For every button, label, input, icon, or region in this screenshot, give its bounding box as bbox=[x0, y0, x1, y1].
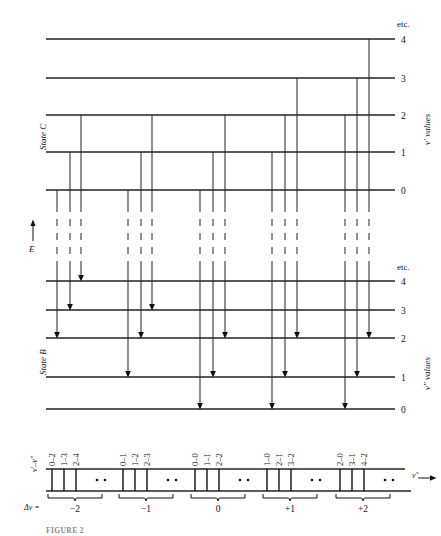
spectrum-dot bbox=[392, 479, 395, 482]
wavenumber-arrowhead bbox=[430, 475, 437, 481]
spectrum-line-label-3–2: 3–2 bbox=[286, 453, 296, 466]
spectrum-line-label-0–2: 0–2 bbox=[47, 453, 57, 466]
energy-axis-label: E bbox=[29, 244, 35, 254]
spectrum-line-label-1–2: 1–2 bbox=[130, 453, 140, 466]
transition-3-2 bbox=[294, 78, 300, 339]
spectrum-group-brace-tip bbox=[361, 498, 365, 501]
upper-level-number-4: 4 bbox=[401, 35, 406, 45]
spectrum-line-label-2–2: 2–2 bbox=[214, 453, 224, 466]
spectrum-group-delta-1: −1 bbox=[141, 504, 151, 514]
upper-level-number-2: 2 bbox=[401, 111, 406, 121]
lower-v-values-title: v″ values bbox=[422, 357, 432, 390]
transition-1-3 bbox=[67, 152, 73, 311]
spectrum-group-brace-tip bbox=[73, 498, 77, 501]
spectrum-dot bbox=[96, 479, 99, 482]
upper-level-number-1: 1 bbox=[401, 148, 406, 158]
spectrum-line-label-4–2: 4–2 bbox=[359, 453, 369, 466]
transition-1-1 bbox=[210, 152, 216, 378]
spectrum-group-brace-tip bbox=[216, 498, 220, 501]
spectrum-line-label-1–0: 1–0 bbox=[262, 453, 272, 466]
transition-2-0 bbox=[342, 115, 348, 410]
figure-container: 43210432100–21–32–4−20–11–22–3−10–01–12–… bbox=[0, 0, 441, 536]
transition-3-1 bbox=[354, 78, 360, 378]
transition-row-label: v′–v″ bbox=[30, 456, 39, 472]
upper-level-number-3: 3 bbox=[401, 74, 406, 84]
spectrum-group-delta-2: 0 bbox=[216, 504, 221, 514]
transition-0-2 bbox=[54, 190, 60, 339]
spectrum-group-brace bbox=[119, 494, 173, 498]
spectrum-dot bbox=[247, 479, 250, 482]
upper-level-number-0: 0 bbox=[401, 186, 406, 196]
spectrum-line-label-1–1: 1–1 bbox=[202, 453, 212, 466]
spectrum-line-label-0–0: 0–0 bbox=[190, 453, 200, 466]
transition-4-2 bbox=[366, 39, 372, 339]
spectrum-line-label-0–1: 0–1 bbox=[118, 453, 128, 466]
spectrum-dot bbox=[384, 479, 387, 482]
spectrum-dot bbox=[175, 479, 178, 482]
lower-level-number-2: 2 bbox=[401, 334, 406, 344]
state-b-label: State B bbox=[38, 349, 48, 375]
lower-level-number-4: 4 bbox=[401, 277, 406, 287]
upper-v-values-title: v′ values bbox=[422, 114, 432, 145]
state-c-label: State C bbox=[38, 124, 48, 150]
spectrum-group-brace bbox=[336, 494, 390, 498]
lower-level-number-3: 3 bbox=[401, 306, 406, 316]
transition-0-1 bbox=[125, 190, 131, 378]
spectrum-dot bbox=[104, 479, 107, 482]
spectrum-dot bbox=[311, 479, 314, 482]
spectrum-line-label-2–0: 2–0 bbox=[335, 453, 345, 466]
spectrum-group-brace bbox=[191, 494, 245, 498]
upper-etc-label: etc. bbox=[397, 19, 410, 29]
spectrum-line-label-2–4: 2–4 bbox=[71, 453, 81, 467]
spectrum-group-brace bbox=[263, 494, 317, 498]
transition-2-2 bbox=[222, 115, 228, 339]
spectrum-group-delta-3: +1 bbox=[285, 504, 295, 514]
wavenumber-axis-label: ν̃ bbox=[412, 471, 416, 480]
spectrum-dot bbox=[319, 479, 322, 482]
spectrum-line-label-2–1: 2–1 bbox=[274, 453, 284, 466]
spectrum-group-delta-0: −2 bbox=[70, 504, 80, 514]
spectrum-line-label-3–1: 3–1 bbox=[347, 453, 357, 466]
transition-2-4 bbox=[78, 115, 84, 282]
spectrum-group-delta-4: +2 bbox=[358, 504, 368, 514]
delta-v-row-label: Δv = bbox=[24, 503, 40, 512]
lower-level-number-1: 1 bbox=[401, 373, 406, 383]
figure-caption: FIGURE 2 bbox=[46, 526, 84, 535]
spectrum-dot bbox=[167, 479, 170, 482]
spectrum-dot bbox=[239, 479, 242, 482]
spectrum-line-label-2–3: 2–3 bbox=[142, 453, 152, 466]
spectrum-line-label-1–3: 1–3 bbox=[59, 453, 69, 466]
lower-etc-label: etc. bbox=[397, 262, 410, 272]
spectrum-group-brace-tip bbox=[144, 498, 148, 501]
lower-level-number-0: 0 bbox=[401, 405, 406, 415]
energy-axis-arrowhead bbox=[30, 220, 35, 227]
spectrum-group-brace bbox=[48, 494, 102, 498]
energy-level-diagram: 43210432100–21–32–4−20–11–22–3−10–01–12–… bbox=[0, 0, 441, 536]
spectrum-group-brace-tip bbox=[288, 498, 292, 501]
